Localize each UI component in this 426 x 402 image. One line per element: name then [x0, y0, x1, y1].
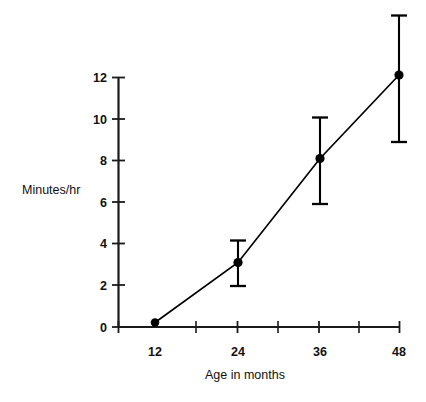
y-tick-label-6: 6: [100, 196, 107, 210]
y-tick-label-12: 12: [93, 71, 107, 85]
y-tick-label-8: 8: [100, 154, 107, 168]
y-tick-labels: 12 10 8 6 4 2 0: [93, 71, 107, 335]
chart-plot-area: 12 10 8 6 4 2 0 12 24 36 48: [0, 0, 426, 402]
y-axis-title: Minutes/hr: [22, 183, 80, 197]
axis-group: [118, 77, 400, 328]
data-point-48: [394, 70, 403, 79]
data-point-36: [315, 154, 324, 163]
x-tick-label-36: 36: [313, 345, 327, 359]
data-point-24: [233, 258, 242, 267]
x-tick-label-12: 12: [148, 345, 162, 359]
series-polyline: [155, 75, 399, 323]
chart-figure: 12 10 8 6 4 2 0 12 24 36 48: [0, 0, 426, 402]
x-tick-label-48: 48: [392, 345, 406, 359]
data-point-12: [151, 318, 160, 327]
error-bars: [230, 15, 407, 286]
x-tick-label-24: 24: [231, 345, 245, 359]
x-axis-title: Age in months: [205, 368, 285, 382]
y-tick-label-2: 2: [100, 279, 107, 293]
y-tick-label-4: 4: [100, 237, 107, 251]
y-tick-label-10: 10: [93, 113, 107, 127]
y-tick-label-0: 0: [100, 321, 107, 335]
x-tick-labels: 12 24 36 48: [148, 345, 406, 359]
data-series-line: [155, 75, 399, 323]
data-point-markers: [151, 70, 404, 326]
